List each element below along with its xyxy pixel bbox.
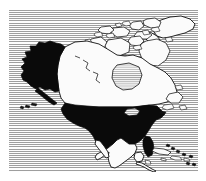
aleutian-islands — [20, 103, 37, 109]
cuba — [152, 148, 171, 155]
north-america-map-svg — [9, 10, 198, 172]
map-panel[interactable] — [9, 10, 198, 172]
ellesmere-island — [143, 18, 161, 28]
region-caribbean[interactable] — [152, 144, 196, 166]
hispaniola — [170, 156, 182, 160]
map-figure — [0, 0, 206, 181]
great-lakes — [124, 108, 140, 116]
